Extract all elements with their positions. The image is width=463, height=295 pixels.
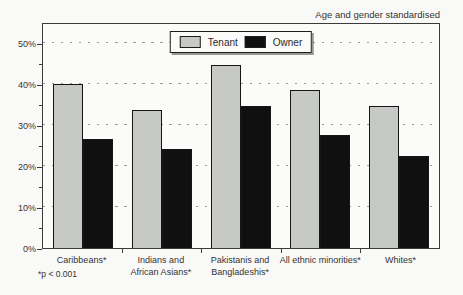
bar-owner-4: [320, 135, 350, 248]
x-tick-3: [281, 249, 282, 253]
legend-swatch-owner: [245, 36, 266, 48]
footnote: *p < 0.001: [38, 269, 77, 279]
bar-group-5: [360, 24, 439, 248]
y-axis-label-10: 10%: [0, 203, 36, 213]
y-axis-label-40: 40%: [0, 80, 36, 90]
y-tick-minor-45: [39, 64, 42, 65]
y-tick-minor-5: [39, 228, 42, 229]
bar-tenant-1: [53, 84, 83, 248]
y-tick-major-10: [37, 208, 42, 209]
legend-label-tenant: Tenant: [208, 37, 238, 48]
y-tick-minor-35: [39, 105, 42, 106]
x-axis-label-4: All ethnic minorities*: [280, 254, 361, 278]
x-tick-1: [122, 249, 123, 253]
y-tick-major-30: [37, 126, 42, 127]
bar-owner-2: [162, 149, 192, 248]
bar-owner-5: [399, 156, 429, 248]
plot-area: Tenant Owner: [42, 23, 440, 249]
bar-group-4: [281, 24, 360, 248]
y-axis-label-50: 50%: [0, 39, 36, 49]
x-axis-labels: Caribbeans*Indians andAfrican Asians*Pak…: [42, 254, 440, 278]
bars-layer: [43, 24, 439, 248]
x-tick-2: [201, 249, 202, 253]
x-axis-label-5: Whites*: [361, 254, 440, 278]
y-axis-label-20: 20%: [0, 162, 36, 172]
annotation-top-right: Age and gender standardised: [315, 9, 440, 20]
y-tick-major-20: [37, 167, 42, 168]
y-tick-major-0: [37, 249, 42, 250]
x-axis-label-3: Pakistanis andBangladeshis*: [201, 254, 280, 278]
legend-label-owner: Owner: [273, 37, 302, 48]
y-tick-minor-25: [39, 146, 42, 147]
bar-owner-1: [83, 139, 113, 248]
bar-owner-3: [241, 106, 271, 248]
legend: Tenant Owner: [170, 31, 312, 53]
bar-group-2: [122, 24, 201, 248]
legend-swatch-tenant: [180, 36, 201, 48]
bar-tenant-3: [211, 65, 241, 248]
bar-tenant-5: [369, 106, 399, 248]
bar-group-1: [43, 24, 122, 248]
x-tick-4: [360, 249, 361, 253]
y-tick-minor-15: [39, 187, 42, 188]
bar-tenant-2: [132, 110, 162, 248]
y-tick-major-40: [37, 85, 42, 86]
y-tick-major-50: [37, 44, 42, 45]
y-axis-label-0: 0%: [0, 244, 36, 254]
x-axis-label-2: Indians andAfrican Asians*: [121, 254, 200, 278]
y-axis-label-30: 30%: [0, 121, 36, 131]
bar-group-3: [201, 24, 280, 248]
bar-tenant-4: [290, 90, 320, 248]
figure: Age and gender standardised Tenant Owner…: [0, 0, 463, 295]
